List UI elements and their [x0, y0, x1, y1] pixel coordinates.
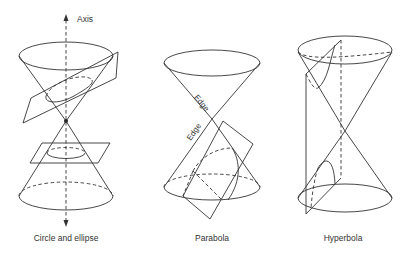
axis-label: Axis — [77, 14, 93, 24]
lower-cone-rim-front — [164, 187, 260, 200]
upper-cone-edge-left — [19, 56, 66, 121]
parabola-curve — [228, 148, 238, 200]
axis-arrow-up-icon — [64, 14, 69, 21]
upper-cone-rim — [164, 50, 260, 76]
vertical-plane-bottom-edge — [306, 178, 341, 214]
panel-parabola — [164, 50, 260, 219]
upper-cone-edge-right — [212, 63, 260, 119]
lower-cone-edge-right — [212, 119, 260, 187]
ellipse-section-front — [46, 80, 92, 102]
lower-cone-rim-back — [164, 174, 260, 187]
tilted-cutting-plane — [23, 52, 118, 123]
upper-rim-hidden — [298, 52, 392, 57]
lower-cone-edge-right — [345, 131, 392, 198]
axis-arrow-down-icon — [64, 220, 69, 227]
hyperbola-lower-branch — [318, 161, 335, 184]
caption-parabola: Parabola — [195, 233, 229, 243]
parabola-section-back — [193, 148, 232, 171]
hyperbola-upper-branch — [318, 45, 335, 88]
caption-hyperbola: Hyperbola — [324, 233, 363, 243]
upper-cone-rim — [298, 36, 392, 64]
panel-hyperbola — [298, 36, 392, 214]
conic-sections-diagram — [0, 0, 408, 259]
lower-cone-edge-left — [164, 119, 212, 187]
lower-cone-edge-left — [298, 131, 345, 198]
panel-circle-ellipse — [19, 14, 118, 227]
caption-circle-ellipse: Circle and ellipse — [34, 233, 99, 243]
upper-cone-edge-right — [66, 56, 113, 121]
plane-guide-line — [193, 171, 222, 200]
